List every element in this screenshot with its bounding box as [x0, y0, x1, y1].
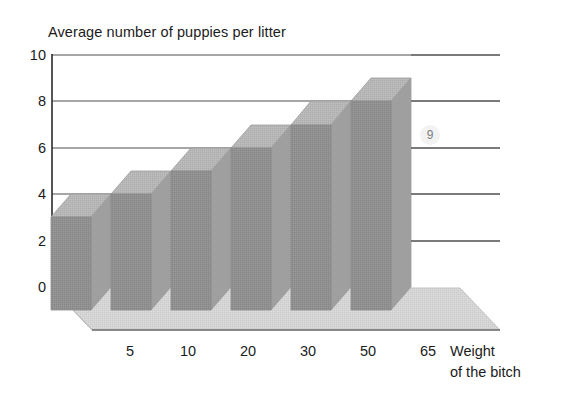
bar-chart-figure: Average number of puppies per litter 10 … [0, 0, 581, 394]
xtick-label-4: 30 [288, 343, 328, 359]
xtick-label-5: 50 [348, 343, 388, 359]
plot-area: 4 5 6 7 [0, 0, 581, 394]
xtick-label-6: 65 [408, 343, 448, 359]
xtick-label-2: 10 [168, 343, 208, 359]
x-axis-title-line2: of the bitch [450, 364, 521, 380]
x-axis-title-line1: Weight [450, 343, 495, 359]
xtick-label-1: 5 [110, 343, 150, 359]
gridlines-foreground [411, 55, 500, 241]
bar-value-label-6: 9 [427, 128, 434, 142]
xtick-label-3: 20 [228, 343, 268, 359]
